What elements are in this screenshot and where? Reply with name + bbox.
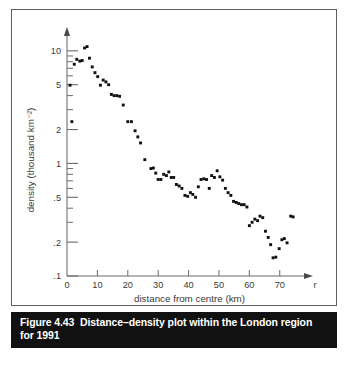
figure-caption-bar: Figure 4.43 Distance–density plot within…	[11, 312, 337, 348]
data-point	[172, 176, 175, 179]
data-point	[243, 203, 246, 206]
data-point	[88, 57, 91, 60]
x-tick-label: 60	[244, 280, 254, 290]
y-tick-label: 2	[56, 125, 61, 135]
data-point	[237, 202, 240, 205]
figure-root: 10521.5.2.1010203040506070rdistance from…	[0, 0, 350, 373]
y-axis-arrow	[64, 27, 70, 36]
data-point	[165, 174, 168, 177]
data-point	[256, 219, 259, 222]
data-point	[229, 194, 232, 197]
data-point	[224, 187, 227, 190]
x-axis-title: distance from centre (km)	[134, 293, 245, 304]
data-point	[94, 71, 97, 74]
data-point	[261, 216, 264, 219]
x-tick-label: 40	[183, 280, 193, 290]
data-point	[86, 45, 89, 48]
y-axis-title: density (thousand km⁻²)	[25, 108, 36, 213]
x-tick-label: 50	[214, 280, 224, 290]
data-point	[197, 185, 200, 188]
figure-number: Figure 4.43	[20, 316, 74, 328]
data-point	[96, 75, 99, 78]
data-point	[139, 141, 142, 144]
y-tick-label: 1	[56, 159, 61, 169]
data-point	[210, 174, 213, 177]
data-point	[286, 241, 289, 244]
data-point	[232, 200, 235, 203]
data-point	[218, 175, 221, 178]
scatter-series	[69, 45, 295, 259]
data-point	[248, 224, 251, 227]
data-point	[213, 176, 216, 179]
data-point	[269, 243, 272, 246]
data-point	[208, 187, 211, 190]
data-point	[191, 193, 194, 196]
data-point	[267, 236, 270, 239]
data-point	[81, 59, 84, 62]
data-point	[91, 65, 94, 68]
data-point	[70, 120, 73, 123]
data-point	[253, 218, 256, 221]
data-point	[75, 58, 78, 61]
data-point	[251, 221, 254, 224]
data-point	[272, 256, 275, 259]
data-point	[113, 94, 116, 97]
y-tick-label: .5	[53, 193, 61, 203]
data-point	[264, 230, 267, 233]
data-point	[162, 173, 165, 176]
chart-plot-frame: 10521.5.2.1010203040506070rdistance from…	[11, 9, 337, 306]
data-point	[259, 215, 262, 218]
data-point	[183, 194, 186, 197]
x-tick-label: 30	[153, 280, 163, 290]
x-tick-label: 0	[64, 280, 69, 290]
data-point	[69, 84, 72, 87]
data-point	[122, 104, 125, 107]
data-point	[175, 183, 178, 186]
x-tick-label: 70	[275, 280, 285, 290]
data-point	[130, 120, 133, 123]
data-point	[221, 179, 224, 182]
data-point	[73, 63, 76, 66]
data-point	[104, 80, 107, 83]
data-point	[240, 203, 243, 206]
y-tick-label: 10	[51, 46, 61, 56]
data-point	[152, 167, 155, 170]
scatter-chart: 10521.5.2.1010203040506070rdistance from…	[12, 10, 336, 305]
data-point	[167, 170, 170, 173]
data-point	[178, 185, 181, 188]
data-point	[115, 94, 118, 97]
data-point	[136, 135, 139, 138]
data-point	[245, 206, 248, 209]
data-point	[278, 247, 281, 250]
data-point	[194, 196, 197, 199]
y-tick-label: .2	[53, 238, 61, 248]
y-tick-label: 5	[56, 80, 61, 90]
data-point	[216, 169, 219, 172]
data-point	[159, 178, 162, 181]
x-axis-arrow	[304, 273, 313, 279]
data-point	[283, 237, 286, 240]
x-axis-symbol: r	[313, 280, 316, 290]
x-tick-label: 20	[123, 280, 133, 290]
data-point	[157, 178, 160, 181]
data-point	[292, 215, 295, 218]
data-point	[107, 83, 110, 86]
data-point	[134, 129, 137, 132]
data-point	[200, 178, 203, 181]
x-tick-label: 10	[92, 280, 102, 290]
data-point	[274, 256, 277, 259]
data-point	[154, 172, 157, 175]
data-point	[99, 84, 102, 87]
data-point	[205, 178, 208, 181]
data-point	[186, 195, 189, 198]
data-point	[102, 79, 105, 82]
data-point	[118, 95, 121, 98]
data-point	[227, 191, 230, 194]
data-point	[126, 120, 129, 123]
y-tick-label: .1	[53, 271, 61, 281]
data-point	[110, 93, 113, 96]
data-point	[202, 177, 205, 180]
data-point	[143, 158, 146, 161]
data-point	[180, 187, 183, 190]
